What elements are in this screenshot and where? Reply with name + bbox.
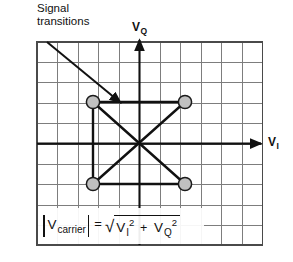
constellation-point-top-right xyxy=(178,95,191,108)
vq-symbol: V xyxy=(132,20,140,34)
formula-term-2-exponent: 2 xyxy=(172,217,177,228)
formula-term-1-subscript: I xyxy=(126,227,129,238)
formula-term-2-symbol: V xyxy=(154,220,163,235)
annotation-line-2: transitions xyxy=(37,15,89,28)
vq-subscript: Q xyxy=(141,26,148,36)
constellation-point-bottom-right xyxy=(178,177,191,190)
signal-transitions-annotation: Signal transitions xyxy=(37,2,89,28)
vq-axis-label: VQ xyxy=(132,21,147,34)
formula-lhs-symbol: V xyxy=(48,217,57,232)
formula-term-2: VQ2 xyxy=(154,220,176,235)
radical-glyph: √ xyxy=(105,217,114,236)
formula-term-1-exponent: 2 xyxy=(129,217,134,228)
constellation-point-bottom-left xyxy=(86,177,99,190)
formula-radicand: VI2 + VQ2 xyxy=(114,215,180,233)
carrier-magnitude-formula: Vcarrier = √ VI2 + VQ2 xyxy=(40,214,180,236)
formula-term-1: VI2 xyxy=(116,220,133,235)
diagram-canvas: Signal transitions VQ VI Vcarrier = √ VI… xyxy=(0,0,293,262)
annotation-line-1: Signal xyxy=(37,2,89,15)
formula-term-1-symbol: V xyxy=(116,220,125,235)
formula-equals: = xyxy=(94,217,102,232)
formula-lhs-subscript: carrier xyxy=(58,224,86,235)
constellation-point-top-left xyxy=(86,95,99,108)
abs-bar-left xyxy=(43,215,45,237)
signal-transitions-arrow xyxy=(47,42,121,103)
vi-subscript: I xyxy=(277,141,279,151)
vi-axis-label: VI xyxy=(268,136,278,149)
vi-symbol: V xyxy=(268,135,276,149)
formula-term-2-subscript: Q xyxy=(164,227,172,238)
formula-lhs: Vcarrier xyxy=(48,217,85,233)
formula-radical: √ VI2 + VQ2 xyxy=(105,214,180,233)
formula-operator: + xyxy=(140,221,147,235)
abs-bar-right xyxy=(88,215,90,237)
